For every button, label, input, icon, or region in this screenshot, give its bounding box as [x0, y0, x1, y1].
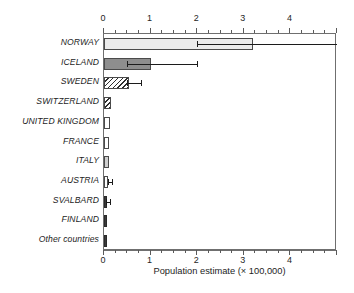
axis-tick	[138, 30, 139, 33]
category-label-united-kingdom: UNITED KINGDOM	[0, 117, 99, 126]
axis-tick	[243, 28, 244, 33]
error-cap	[108, 179, 109, 185]
axis-tick	[301, 30, 302, 33]
axis-tick-label: 4	[287, 13, 292, 23]
category-label-other-countries: Other countries	[0, 235, 99, 244]
axis-tick-label: 3	[240, 255, 245, 265]
chart-figure: 01234 01234 NORWAYICELANDSWEDENSWITZERLA…	[0, 0, 354, 293]
bar-switzerland	[104, 97, 111, 109]
axis-tick-label: 3	[240, 13, 245, 23]
axis-tick	[208, 30, 209, 33]
axis-tick	[185, 30, 186, 33]
axis-tick	[231, 30, 232, 33]
axis-tick	[313, 250, 314, 253]
axis-tick	[324, 30, 325, 33]
axis-tick	[289, 28, 290, 33]
error-cap	[197, 61, 198, 67]
axis-tick	[220, 30, 221, 33]
category-label-austria: AUSTRIA	[0, 176, 99, 185]
error-bar-sweden	[127, 83, 141, 84]
bar-united-kingdom	[104, 117, 110, 129]
axis-tick-label: 0	[100, 13, 105, 23]
axis-tick-label: 1	[147, 255, 152, 265]
axis-tick-label: 2	[194, 13, 199, 23]
axis-tick	[115, 250, 116, 253]
axis-tick	[254, 30, 255, 33]
axis-tick	[173, 250, 174, 253]
axis-tick	[161, 30, 162, 33]
axis-tick	[208, 250, 209, 253]
bar-france	[104, 137, 109, 149]
axis-tick	[126, 30, 127, 33]
axis-tick	[266, 250, 267, 253]
error-bar-norway	[197, 44, 337, 45]
bar-sweden	[104, 77, 129, 89]
category-axis-labels: NORWAYICELANDSWEDENSWITZERLANDUNITED KIN…	[0, 33, 99, 250]
bar-finland	[104, 215, 107, 227]
error-cap	[197, 41, 198, 47]
error-cap	[112, 179, 113, 185]
category-label-norway: NORWAY	[0, 38, 99, 47]
axis-tick-label: 1	[147, 13, 152, 23]
error-cap	[127, 80, 128, 86]
error-cap	[106, 199, 107, 205]
bar-italy	[104, 156, 109, 168]
category-label-france: FRANCE	[0, 137, 99, 146]
error-cap	[127, 61, 128, 67]
axis-tick	[220, 250, 221, 253]
error-cap	[141, 80, 142, 86]
category-label-finland: FINLAND	[0, 215, 99, 224]
axis-tick	[313, 30, 314, 33]
error-cap	[110, 199, 111, 205]
axis-tick	[278, 30, 279, 33]
axis-tick-label: 0	[100, 255, 105, 265]
plot-area	[103, 33, 336, 250]
bar-other-countries	[104, 235, 107, 247]
category-label-italy: ITALY	[0, 156, 99, 165]
axis-tick	[115, 30, 116, 33]
category-label-switzerland: SWITZERLAND	[0, 97, 99, 106]
category-label-svalbard: SVALBARD	[0, 196, 99, 205]
axis-tick	[161, 250, 162, 253]
axis-tick	[173, 30, 174, 33]
axis-tick	[150, 28, 151, 33]
axis-tick	[301, 250, 302, 253]
category-label-sweden: SWEDEN	[0, 77, 99, 86]
axis-tick	[103, 28, 104, 33]
error-bar-iceland	[127, 64, 197, 65]
axis-tick-label: 2	[194, 255, 199, 265]
axis-tick	[324, 250, 325, 253]
axis-tick	[278, 250, 279, 253]
axis-tick	[336, 28, 337, 33]
axis-tick	[266, 30, 267, 33]
axis-tick	[126, 250, 127, 253]
category-label-iceland: ICELAND	[0, 58, 99, 67]
axis-tick-label: 4	[287, 255, 292, 265]
axis-tick	[185, 250, 186, 253]
x-axis-title: Population estimate (× 100,000)	[103, 266, 336, 276]
axis-tick	[196, 28, 197, 33]
axis-tick	[231, 250, 232, 253]
axis-tick	[138, 250, 139, 253]
axis-tick	[336, 250, 337, 255]
axis-tick	[254, 250, 255, 253]
